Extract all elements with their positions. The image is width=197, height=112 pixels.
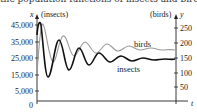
left-axis-label: (insects) (41, 10, 68, 19)
right-ticks: 250 200 150 100 50 (174, 24, 192, 92)
left-tick-label: 15,000 (11, 71, 33, 80)
right-axis-arrow-icon (174, 14, 178, 19)
right-tick-label: 100 (180, 69, 192, 78)
left-tick-label: 5,000 (15, 87, 33, 96)
right-axis-label: (birds) (150, 10, 172, 19)
right-tick-label: 150 (180, 54, 192, 63)
birds-label: birds (134, 39, 151, 49)
right-axis-var: y (179, 10, 184, 19)
birds-curve (37, 24, 175, 73)
left-tick-label: 45,000 (11, 21, 33, 30)
left-ticks: 45,000 35,000 25,000 15,000 5,000 0 (11, 21, 39, 110)
left-tick-label: 35,000 (11, 38, 33, 47)
right-tick-label: 200 (180, 39, 192, 48)
left-axis-arrow-icon (35, 14, 39, 19)
origin-label: 0 (29, 101, 33, 110)
left-axis-var: x (29, 10, 34, 19)
t-axis-label: t (191, 99, 194, 108)
insects-label: insects (117, 64, 140, 74)
predator-prey-chart: 45,000 35,000 25,000 15,000 5,000 0 250 … (0, 0, 197, 112)
left-tick-label: 25,000 (11, 54, 33, 63)
right-tick-label: 250 (180, 24, 192, 33)
right-tick-label: 50 (180, 83, 188, 92)
